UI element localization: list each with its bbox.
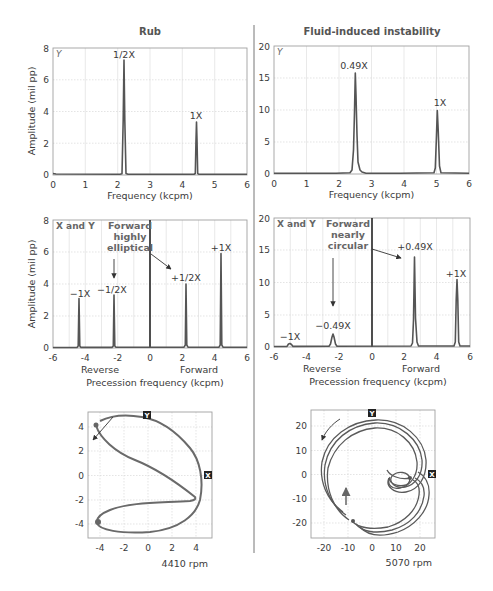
x-axis-label: Precession frequency (kcpm) (309, 376, 447, 387)
y-tick: 2 (43, 311, 49, 321)
x-tick: -4 (302, 352, 311, 362)
y-tick: 10 (259, 278, 271, 288)
badge-y: Y (368, 409, 376, 418)
y-tick: 0 (43, 170, 49, 180)
x-tick: 4 (193, 543, 199, 553)
x-tick: 0 (271, 179, 277, 189)
y-tick: 4 (43, 107, 49, 117)
y-tick: -20 (292, 518, 307, 528)
peak-label-049x: 0.49X (340, 60, 368, 71)
x-tick: 4 (179, 180, 185, 190)
x-tick: 4 (401, 179, 407, 189)
xy-probe-label: X and Y (277, 219, 316, 229)
y-tick: 8 (43, 44, 49, 54)
rotation-arrow (322, 419, 340, 440)
rub-annotation-line2: highly (113, 231, 147, 242)
y-tick: -10 (292, 494, 307, 504)
rub-orbit-chart: Y X 4 2 0 -2 -4 -4 -2 0 2 4 4410 rpm (75, 411, 212, 569)
svg-text:Y: Y (368, 410, 375, 418)
y-axis-label: Amplitude (mil pp) (26, 67, 37, 156)
x-tick: 5 (434, 179, 440, 189)
fii-full-spectrum-chart: X and Y Forward nearly circular −1X −0.4… (259, 214, 474, 388)
reverse-label: Reverse (81, 364, 119, 375)
rub-spectrum-chart: Y 1/2X 1X 0 2 4 6 8 0 1 2 3 4 5 6 Freque… (26, 44, 250, 202)
fii-orbit-trace (321, 420, 429, 535)
y-tick: 6 (43, 247, 49, 257)
y-tick: 2 (78, 446, 84, 456)
peak-label-plus-1x: +1X (211, 242, 232, 253)
forward-label: Forward (402, 363, 440, 374)
x-tick: 2 (336, 179, 342, 189)
x-tick: 3 (147, 180, 153, 190)
x-tick: 4 (434, 352, 440, 362)
y-tick: -2 (75, 495, 84, 505)
peak-label-minus-half-x: −1/2X (97, 284, 127, 295)
y-tick: -4 (75, 519, 84, 529)
y-tick: 8 (43, 216, 49, 226)
forward-label: Forward (180, 364, 218, 375)
x-tick: 2 (179, 353, 185, 363)
fii-annotation-line2: nearly (331, 229, 366, 240)
badge-x: X (428, 470, 436, 479)
x-tick: -6 (270, 352, 279, 362)
peak-label-plus-1x: +1X (446, 268, 467, 279)
y-tick: 20 (259, 42, 271, 52)
rub-annotation-line1: Forward (108, 220, 152, 231)
peak-label-1x: 1X (190, 110, 203, 121)
y-tick: 2 (43, 139, 49, 149)
peak-label-1x: 1X (434, 97, 447, 108)
x-tick: -2 (335, 352, 344, 362)
x-axis-label: Frequency (kcpm) (107, 190, 193, 201)
svg-text:X: X (205, 472, 211, 480)
x-tick: 6 (466, 179, 472, 189)
x-tick: 4 (212, 353, 218, 363)
figure: Rub Fluid-induced instability Y 1/2X 1X … (0, 0, 493, 591)
x-tick: 0 (369, 352, 375, 362)
svg-text:X: X (429, 471, 435, 479)
y-tick: 0 (78, 471, 84, 481)
x-tick: -6 (49, 353, 58, 363)
x-axis-label: Frequency (kcpm) (329, 189, 415, 200)
fii-spectrum-chart: Y 0.49X 1X 0 5 10 15 20 0 1 2 3 4 5 6 Fr… (259, 42, 473, 201)
x-tick: 1 (82, 180, 88, 190)
peak-label-minus-1x: −1X (70, 288, 91, 299)
peak-label-plus-049x: +0.49X (397, 241, 433, 252)
x-tick: 2 (169, 543, 175, 553)
peak-label-minus-1x: −1X (280, 331, 301, 342)
y-tick: 0 (264, 342, 270, 352)
x-tick: -4 (81, 353, 90, 363)
x-tick: 0 (369, 543, 375, 553)
x-tick: -10 (341, 543, 356, 553)
y-tick: 10 (296, 446, 308, 456)
y-tick: 20 (296, 421, 308, 431)
x-tick: -2 (120, 543, 129, 553)
y-tick: 4 (78, 422, 84, 432)
x-tick: 10 (390, 543, 402, 553)
arrow-to-plus-half-x (151, 254, 171, 269)
y-axis-label: Amplitude (mil pp) (26, 240, 37, 329)
y-tick: 6 (43, 75, 49, 85)
x-tick: 0 (145, 543, 151, 553)
y-tick: 0 (264, 169, 270, 179)
rub-title: Rub (139, 26, 161, 37)
y-probe-label: Y (56, 49, 63, 59)
y-tick: 20 (259, 214, 271, 224)
x-tick: 3 (369, 179, 375, 189)
x-tick: 6 (244, 180, 250, 190)
peak-label-plus-half-x: +1/2X (171, 272, 201, 283)
badge-y: Y (143, 411, 151, 420)
x-tick: 5 (212, 180, 218, 190)
peak-label-minus-049x: −0.49X (315, 320, 351, 331)
fii-title: Fluid-induced instability (303, 26, 441, 37)
x-tick: 1 (304, 179, 310, 189)
x-tick: 2 (115, 180, 121, 190)
rub-annotation-line3: elliptical (107, 242, 153, 253)
x-tick: 0 (147, 353, 153, 363)
y-tick: 5 (264, 310, 270, 320)
x-tick: -20 (317, 543, 332, 553)
y-tick: 15 (259, 73, 270, 83)
badge-x: X (204, 471, 212, 480)
x-tick: -2 (113, 353, 122, 363)
y-tick: 4 (43, 279, 49, 289)
reverse-label: Reverse (303, 363, 341, 374)
